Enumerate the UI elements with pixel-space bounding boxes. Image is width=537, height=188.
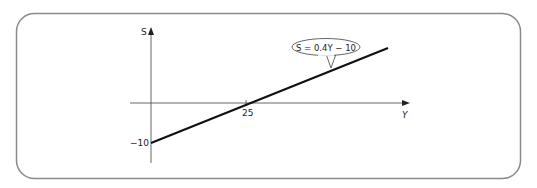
intercept-label: −10: [130, 138, 149, 148]
equation-label: S = 0.4Y − 10: [296, 43, 356, 53]
diagram-canvas: S Y 25 −10 S = 0.4Y − 10: [0, 0, 537, 188]
tick-25-label: 25: [242, 108, 253, 118]
s-axis-label: S: [141, 27, 147, 37]
